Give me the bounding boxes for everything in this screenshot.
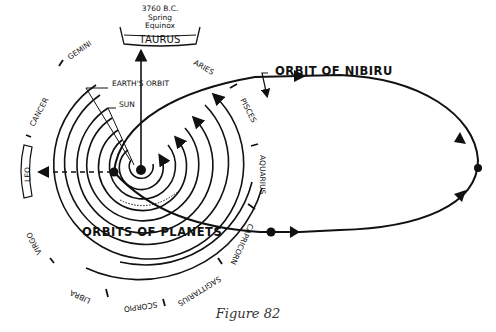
zodiac-pisces: PISCES bbox=[238, 97, 258, 125]
zodiac-taurus: TAURUS bbox=[138, 34, 180, 45]
orbits-of-planets-label: ORBITS OF PLANETS bbox=[82, 225, 222, 239]
nibiru-apogee-dot bbox=[474, 164, 482, 172]
sun-label: SUN bbox=[119, 100, 135, 109]
earths-orbit-label: EARTH'S ORBIT bbox=[112, 79, 169, 88]
nibiru-orbit-diagram: 3760 B.C. Spring Equinox TAURUS EARTH'S … bbox=[0, 0, 496, 332]
zodiac-aries: ARIES bbox=[192, 58, 216, 77]
nibiru-dot bbox=[267, 228, 276, 237]
direction-arrow-icon bbox=[454, 132, 466, 144]
zodiac-gemini: GEMINI bbox=[66, 39, 93, 62]
zodiac-sagittarius: SAGITTARIUS bbox=[176, 274, 223, 308]
zodiac-aquarius: AQUARIUS bbox=[258, 155, 267, 194]
zodiac-separators bbox=[26, 60, 258, 306]
date-label: 3760 B.C. bbox=[142, 4, 179, 13]
zodiac-libra: LIBRA bbox=[68, 288, 92, 306]
orbit-of-nibiru-label: ORBIT OF NIBIRU bbox=[275, 64, 393, 78]
zodiac-cancer: CANCER bbox=[28, 96, 51, 128]
direction-arrow-icon bbox=[290, 226, 300, 238]
equinox-label: Equinox bbox=[145, 21, 175, 30]
orbits-of-planets bbox=[54, 85, 262, 280]
figure-caption: Figure 82 bbox=[0, 306, 496, 321]
nibiru-orbit bbox=[114, 75, 478, 232]
zodiac-leo: LEO bbox=[23, 167, 32, 182]
zodiac-virgo: VIRGO bbox=[24, 231, 43, 257]
